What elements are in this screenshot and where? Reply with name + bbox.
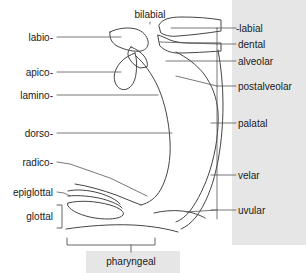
larynx-to-pharynx-outline [154,211,205,218]
label-postalveolar: postalveolar [238,81,292,92]
label-glottal: glottal [0,211,53,222]
tongue-tip-blade-outline [114,53,136,90]
vocal-tract-diagram: bilabial labio- apico- lamino- dorso- ra… [0,0,306,273]
label-alveolar: alveolar [238,56,273,67]
label-palatal: palatal [238,118,267,129]
label-apico: apico- [0,67,53,78]
label-dental: dental [238,39,265,50]
connector-postalveolar [176,76,217,86]
trachea-floor-outline [66,225,178,232]
label-bilabial: bilabial [105,9,195,20]
label-lamino: lamino- [0,90,53,101]
leader-epiglottal [57,192,70,196]
lower-lip-outline [110,28,148,51]
pharyngeal-bracket [67,238,155,245]
label-epiglottal: epiglottal [0,187,53,198]
label-labial: -labial [236,23,263,34]
label-labio: labio- [0,32,53,43]
label-velar: velar [238,170,260,181]
larynx-outline [68,201,123,219]
label-dorso: dorso- [0,128,53,139]
label-radico: radico- [0,157,53,168]
label-uvular: uvular [238,205,265,216]
glottal-bracket [57,205,62,228]
tongue-body-outline [136,56,170,205]
label-pharyngeal: pharyngeal [86,256,176,267]
tongue-root-outline [75,184,141,205]
